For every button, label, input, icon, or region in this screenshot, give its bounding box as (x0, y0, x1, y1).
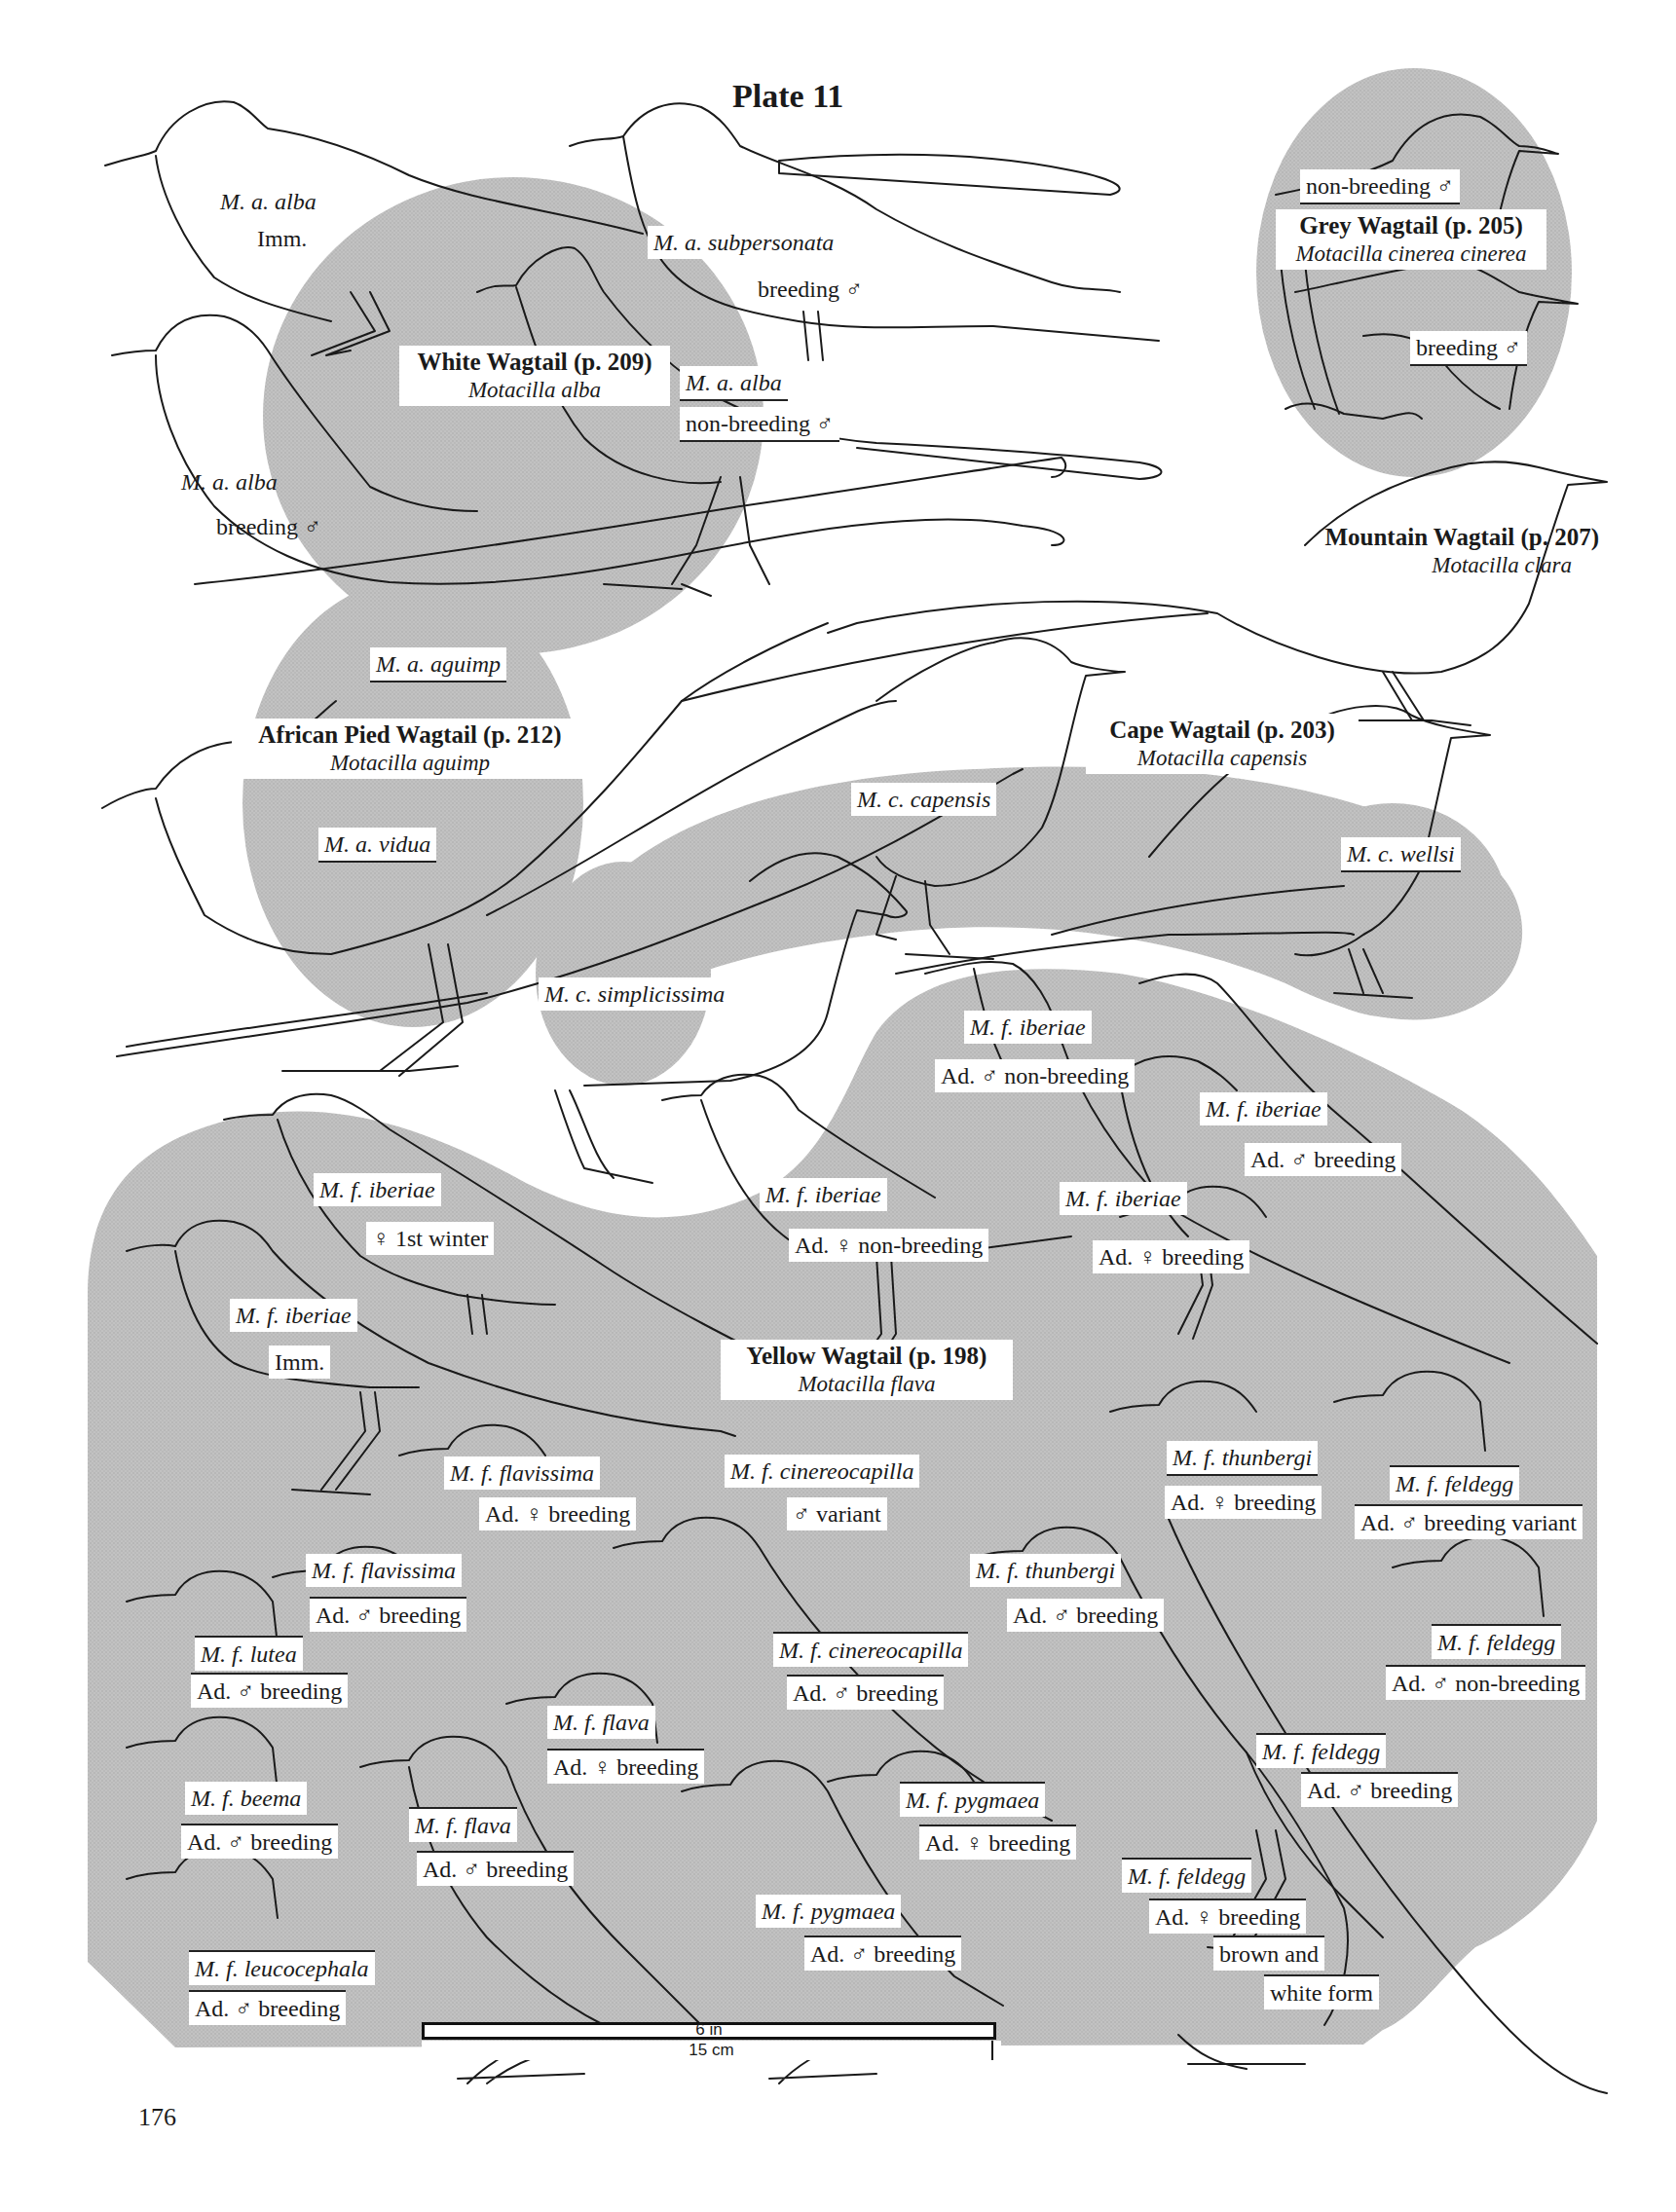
species-heading-mountain-wagtail: Mountain Wagtail (p. 207) Motacilla clar… (1285, 521, 1607, 581)
label-taxon: M. f. thunbergi (1167, 1441, 1318, 1476)
label-taxon: M. f. flavissima (306, 1554, 462, 1587)
species-name: Cape Wagtail (p. 203) (1094, 716, 1351, 745)
label-note: Ad. ♀ breeding (1093, 1240, 1249, 1273)
species-scientific: Motacilla clara (1293, 552, 1599, 579)
species-heading-grey-wagtail: Grey Wagtail (p. 205) Motacilla cinerea … (1276, 209, 1546, 270)
label-taxon: M. f. feldegg (1256, 1733, 1386, 1768)
label-note: Ad. ♀ breeding (919, 1825, 1076, 1860)
label-note: Ad. ♂ breeding (1007, 1599, 1164, 1632)
label-note: Ad. ♂ breeding (804, 1936, 961, 1971)
label-taxon: M. f. leucocephala (189, 1950, 375, 1985)
label-taxon: M. f. flava (547, 1706, 655, 1739)
species-scientific: Motacilla aguimp (240, 750, 580, 777)
species-name: Mountain Wagtail (p. 207) (1293, 523, 1599, 552)
label-note: breeding ♂ (752, 273, 869, 306)
label-taxon: M. f. iberiae (314, 1173, 441, 1206)
species-heading-african-pied-wagtail: African Pied Wagtail (p. 212) Motacilla … (232, 719, 588, 779)
label-note: Ad. ♂ breeding (1301, 1772, 1458, 1807)
scale-bar: 6 in 15 cm (422, 2022, 1001, 2061)
label-taxon: M. f. feldegg (1432, 1624, 1561, 1659)
label-taxon: M. f. feldegg (1390, 1465, 1519, 1500)
species-heading-white-wagtail: White Wagtail (p. 209) Motacilla alba (399, 346, 670, 406)
label-taxon: M. f. iberiae (1060, 1182, 1187, 1215)
label-note: Ad. ♀ breeding (1149, 1899, 1306, 1934)
label-note: Ad. ♂ breeding (310, 1597, 466, 1632)
label-note: Ad. ♀ breeding (547, 1749, 704, 1784)
label-taxon: M. f. feldegg (1122, 1858, 1251, 1893)
species-name: Grey Wagtail (p. 205) (1284, 211, 1539, 240)
species-name: White Wagtail (p. 209) (407, 348, 662, 377)
label-taxon: M. c. wellsi (1341, 837, 1461, 872)
label-note: Imm. (251, 222, 313, 255)
species-name: Yellow Wagtail (p. 198) (728, 1342, 1005, 1371)
label-taxon: M. a. aguimp (370, 647, 506, 682)
label-taxon: M. a. alba (175, 465, 283, 498)
species-scientific: Motacilla flava (728, 1371, 1005, 1398)
label-taxon: M. f. iberiae (964, 1011, 1092, 1044)
label-taxon: M. f. iberiae (1200, 1092, 1327, 1125)
label-taxon: M. f. beema (185, 1782, 307, 1815)
label-note: Ad. ♂ breeding (417, 1851, 574, 1886)
label-note: breeding ♂ (1410, 331, 1527, 366)
label-note: breeding ♂ (210, 510, 327, 543)
label-taxon: M. c. capensis (851, 783, 996, 816)
label-taxon: M. f. cinereocapilla (773, 1632, 968, 1667)
label-note: Ad. ♂ non-breeding (935, 1059, 1135, 1092)
label-note: non-breeding ♂ (1300, 169, 1460, 204)
label-taxon: M. a. vidua (318, 828, 436, 863)
label-note: Imm. (269, 1346, 330, 1379)
label-note: ♀ 1st winter (366, 1222, 494, 1255)
label-note: Ad. ♂ breeding variant (1355, 1504, 1583, 1539)
label-note: non-breeding ♂ (680, 407, 839, 442)
label-note: brown and (1213, 1936, 1324, 1971)
scale-metric-label: 15 cm (422, 2042, 1001, 2059)
label-note: ♂ variant (787, 1497, 887, 1530)
label-taxon: M. f. iberiae (230, 1299, 357, 1332)
label-taxon: M. f. iberiae (760, 1178, 887, 1211)
species-heading-cape-wagtail: Cape Wagtail (p. 203) Motacilla capensis (1086, 714, 1359, 774)
label-taxon: M. f. pygmaea (900, 1782, 1045, 1817)
plate-title: Plate 11 (732, 78, 843, 115)
scale-imperial-label: 6 in (422, 2021, 996, 2039)
species-scientific: Motacilla alba (407, 377, 662, 404)
label-taxon: M. a. subpersonata (648, 226, 839, 259)
species-scientific: Motacilla capensis (1094, 745, 1351, 772)
label-note: Ad. ♂ breeding (181, 1824, 338, 1859)
label-taxon: M. c. simplicissima (539, 977, 730, 1011)
label-note: Ad. ♂ breeding (1245, 1143, 1401, 1176)
species-heading-yellow-wagtail: Yellow Wagtail (p. 198) Motacilla flava (721, 1340, 1013, 1400)
label-taxon: M. f. flavissima (444, 1456, 600, 1490)
species-name: African Pied Wagtail (p. 212) (240, 720, 580, 750)
label-taxon: M. f. flava (409, 1807, 517, 1842)
label-taxon: M. a. alba (680, 366, 788, 401)
label-taxon: M. f. pygmaea (756, 1895, 901, 1928)
label-note: white form (1264, 1974, 1379, 2009)
label-note: Ad. ♀ breeding (1165, 1486, 1322, 1519)
label-taxon: M. a. alba (214, 185, 322, 218)
label-note: Ad. ♀ non-breeding (789, 1229, 988, 1262)
label-note: Ad. ♂ non-breeding (1386, 1665, 1585, 1700)
label-note: Ad. ♀ breeding (479, 1497, 636, 1530)
page-number: 176 (138, 2103, 176, 2132)
label-taxon: M. f. thunbergi (970, 1554, 1121, 1587)
label-taxon: M. f. cinereocapilla (725, 1455, 919, 1488)
label-note: Ad. ♂ breeding (787, 1675, 944, 1710)
label-note: Ad. ♂ breeding (189, 1990, 346, 2025)
species-scientific: Motacilla cinerea cinerea (1284, 240, 1539, 268)
label-taxon: M. f. lutea (195, 1636, 303, 1671)
label-note: Ad. ♂ breeding (191, 1673, 348, 1708)
